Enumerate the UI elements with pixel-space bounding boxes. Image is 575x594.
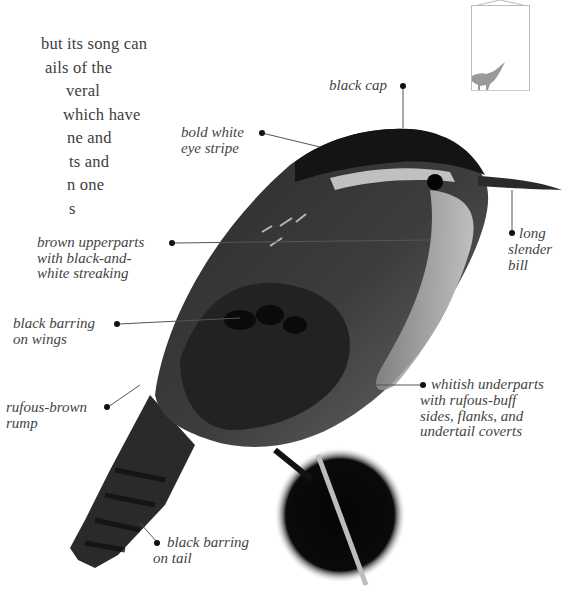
label-wing-barring: black barring on wings <box>13 316 95 347</box>
annotation-dot <box>420 382 426 388</box>
annotation-dot <box>104 404 110 410</box>
label-bill-cont: slender bill <box>508 242 552 273</box>
leader-lines <box>0 0 575 594</box>
annotation-dot <box>400 83 406 89</box>
label-underparts: whitish underparts <box>431 377 544 393</box>
label-upperparts: brown upperparts with black-and- white s… <box>37 235 144 282</box>
label-eye-stripe: bold white eye stripe <box>181 125 244 156</box>
label-underparts-cont: with rufous-buff sides, flanks, and unde… <box>420 393 523 440</box>
annotation-dot <box>259 130 265 136</box>
label-black-cap: black cap <box>329 78 387 94</box>
annotation-dot <box>169 240 175 246</box>
label-rump: rufous-brown rump <box>6 400 87 431</box>
label-tail-barring-cont: on tail <box>153 551 192 567</box>
annotation-dot <box>154 540 160 546</box>
annotation-dot <box>509 230 515 236</box>
label-tail-barring: black barring <box>167 535 249 551</box>
label-bill: long <box>519 226 546 242</box>
annotation-dot <box>114 321 120 327</box>
